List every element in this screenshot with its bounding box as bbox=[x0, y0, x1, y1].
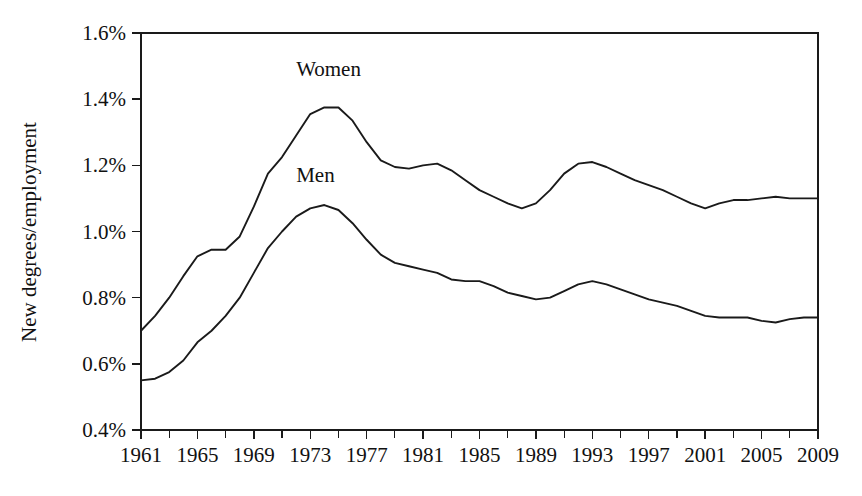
series-line-women bbox=[141, 107, 818, 330]
y-axis-ticks bbox=[132, 33, 141, 430]
series-lines bbox=[141, 107, 818, 380]
y-tick-label: 1.6% bbox=[82, 21, 126, 45]
x-axis-tick-labels: 1961196519691973197719811985198919931997… bbox=[120, 443, 839, 467]
series-label-men: Men bbox=[296, 163, 335, 187]
x-tick-label: 1989 bbox=[515, 443, 557, 467]
x-tick-label: 1965 bbox=[176, 443, 218, 467]
y-tick-label: 1.2% bbox=[82, 153, 126, 177]
y-axis-tick-labels: 1.6%1.4%1.2%1.0%0.8%0.6%0.4% bbox=[82, 21, 126, 442]
x-tick-label: 1969 bbox=[233, 443, 275, 467]
line-chart: 1.6%1.4%1.2%1.0%0.8%0.6%0.4% 19611965196… bbox=[0, 0, 862, 496]
chart-figure: 1.6%1.4%1.2%1.0%0.8%0.6%0.4% 19611965196… bbox=[0, 0, 862, 496]
x-tick-label: 1977 bbox=[346, 443, 388, 467]
x-tick-label: 1997 bbox=[628, 443, 670, 467]
series-label-women: Women bbox=[296, 57, 361, 81]
y-tick-label: 0.8% bbox=[82, 286, 126, 310]
x-tick-label: 1981 bbox=[402, 443, 444, 467]
x-axis-ticks bbox=[141, 430, 818, 439]
y-tick-label: 1.0% bbox=[82, 220, 126, 244]
x-tick-label: 2009 bbox=[797, 443, 839, 467]
y-tick-label: 0.6% bbox=[82, 352, 126, 376]
x-tick-label: 2001 bbox=[684, 443, 726, 467]
x-tick-label: 1993 bbox=[571, 443, 613, 467]
y-tick-label: 1.4% bbox=[82, 87, 126, 111]
y-tick-label: 0.4% bbox=[82, 418, 126, 442]
x-tick-label: 2005 bbox=[741, 443, 783, 467]
x-tick-label: 1985 bbox=[459, 443, 501, 467]
x-tick-label: 1973 bbox=[289, 443, 331, 467]
x-tick-label: 1961 bbox=[120, 443, 162, 467]
y-axis-title: New degrees/employment bbox=[17, 122, 41, 342]
